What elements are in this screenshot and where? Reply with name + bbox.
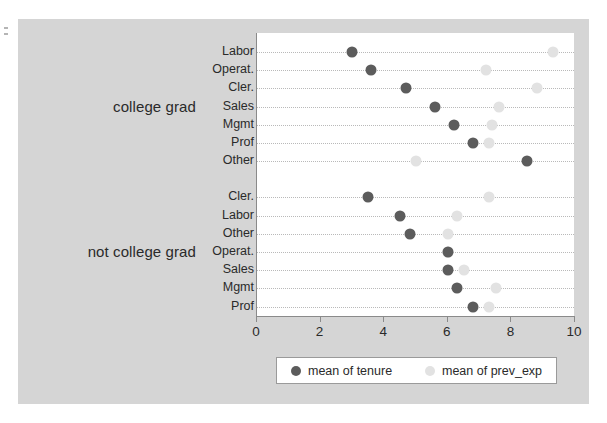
data-point-tenure [401,83,412,94]
scan-artifact [4,33,8,35]
gridline [257,234,574,235]
data-point-tenure [442,265,453,276]
category-label: Cler. [228,81,254,94]
x-axis-tick-label: 10 [566,324,581,339]
x-axis-tick-label: 8 [507,324,515,339]
data-point-tenure [366,65,377,76]
plot-area [257,33,574,316]
legend-swatch-tenure-icon [291,366,301,376]
x-axis-line [256,316,574,317]
gridline [257,197,574,198]
gridline [257,88,574,89]
data-point-prev-exp [531,83,542,94]
category-label: Other [223,227,254,240]
x-axis: 0246810 [256,316,574,346]
category-label: Mgmt [223,118,254,131]
gridline [257,288,574,289]
data-point-tenure [449,119,460,130]
data-point-prev-exp [490,283,501,294]
gridline [257,52,574,53]
data-point-prev-exp [458,265,469,276]
category-label: Prof [231,300,254,313]
data-point-prev-exp [484,192,495,203]
legend-entry[interactable]: mean of tenure [291,358,392,383]
category-label-column: LaborOperat.Cler.SalesMgmtProfOtherCler.… [196,19,254,404]
category-label: Operat. [212,63,254,76]
data-point-tenure [363,192,374,203]
data-point-tenure [522,156,533,167]
data-point-prev-exp [411,156,422,167]
legend-label: mean of prev_exp [442,364,542,378]
data-point-tenure [468,301,479,312]
legend-label: mean of tenure [308,364,392,378]
x-axis-tick [383,316,384,322]
x-axis-tick [447,316,448,322]
data-point-tenure [468,138,479,149]
x-axis-tick [320,316,321,322]
data-point-prev-exp [487,119,498,130]
data-point-tenure [347,47,358,58]
gridline [257,125,574,126]
x-axis-tick-label: 6 [443,324,451,339]
group-label: not college grad [88,243,196,260]
category-label: Other [223,154,254,167]
category-label: Sales [223,263,254,276]
plot-panel [256,33,574,316]
data-point-prev-exp [452,210,463,221]
data-point-tenure [430,101,441,112]
legend-entry[interactable]: mean of prev_exp [425,358,542,383]
category-label: Prof [231,136,254,149]
data-point-prev-exp [480,65,491,76]
category-label: Operat. [212,245,254,258]
x-axis-tick [256,316,257,322]
data-point-prev-exp [493,101,504,112]
x-axis-tick [510,316,511,322]
data-point-tenure [395,210,406,221]
data-point-prev-exp [484,301,495,312]
gridline [257,70,574,71]
data-point-prev-exp [442,228,453,239]
data-point-tenure [404,228,415,239]
data-point-prev-exp [484,138,495,149]
x-axis-tick-label: 2 [316,324,324,339]
category-label: Cler. [228,190,254,203]
data-point-prev-exp [547,47,558,58]
gridline [257,252,574,253]
gridline [257,107,574,108]
gridline [257,216,574,217]
gridline [257,270,574,271]
chart-legend: mean of tenuremean of prev_exp [276,357,557,384]
x-axis-tick-label: 4 [379,324,387,339]
category-label: Labor [222,209,254,222]
data-point-tenure [442,247,453,258]
group-label: college grad [113,98,196,115]
gridline [257,307,574,308]
category-label: Sales [223,100,254,113]
data-point-tenure [452,283,463,294]
chart-figure: college gradnot college grad LaborOperat… [18,19,589,404]
legend-swatch-prev-exp-icon [425,366,435,376]
group-label-column: college gradnot college grad [18,19,196,404]
category-label: Labor [222,45,254,58]
x-axis-tick-label: 0 [252,324,260,339]
gridline [257,143,574,144]
x-axis-tick [574,316,575,322]
category-label: Mgmt [223,281,254,294]
scan-artifact [4,27,8,29]
